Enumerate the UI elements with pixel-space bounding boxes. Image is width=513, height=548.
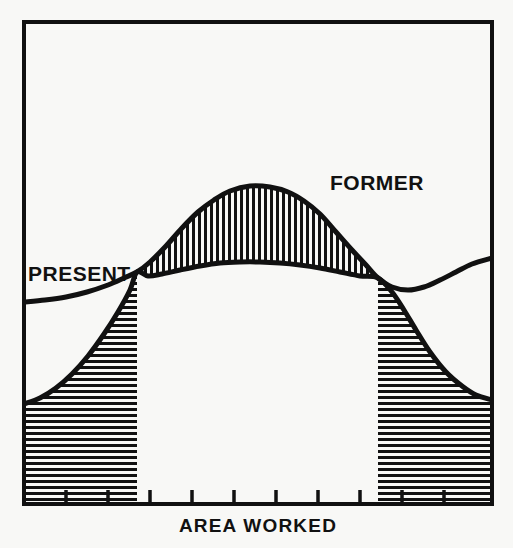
x-axis-label: AREA WORKED (179, 515, 337, 536)
figure-page: PRESENT FORMER AREA WORKED (0, 0, 513, 548)
area-worked-chart: PRESENT FORMER AREA WORKED (0, 0, 513, 548)
former-label: FORMER (330, 171, 424, 194)
present-label: PRESENT (28, 262, 131, 285)
